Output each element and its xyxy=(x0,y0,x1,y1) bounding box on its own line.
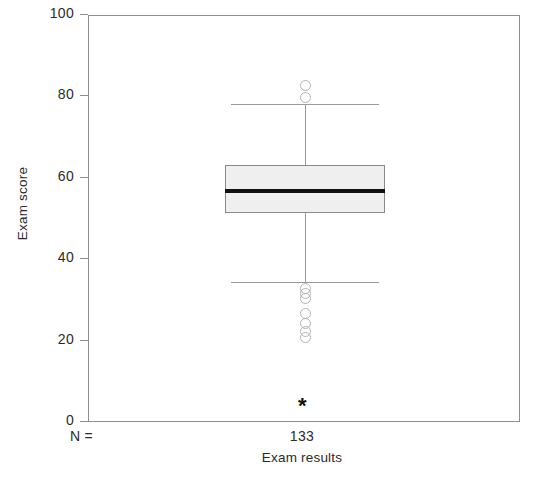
y-tick-mark xyxy=(80,95,88,96)
lower-whisker-stem xyxy=(305,213,306,283)
group-count-label: 133 xyxy=(262,428,342,444)
y-tick-mark xyxy=(80,258,88,259)
y-tick-label: 40 xyxy=(0,249,74,265)
y-tick-mark xyxy=(80,421,88,422)
outlier-circle xyxy=(300,332,311,343)
n-equals-label: N = xyxy=(70,428,93,444)
y-tick-label: 20 xyxy=(0,331,74,347)
y-tick-mark xyxy=(80,340,88,341)
boxplot-figure: Exam score 100806040200 * N = 133 Exam r… xyxy=(0,0,538,479)
median-line xyxy=(225,189,385,193)
outlier-circle xyxy=(300,80,311,91)
plot-area: * xyxy=(88,15,520,422)
upper-whisker-cap xyxy=(231,104,379,105)
x-axis-label: Exam results xyxy=(222,450,382,465)
y-tick-mark xyxy=(80,14,88,15)
y-tick-label: 80 xyxy=(0,86,74,102)
outlier-circle xyxy=(300,293,311,304)
upper-whisker-stem xyxy=(305,104,306,165)
outlier-circle xyxy=(300,92,311,103)
y-tick-mark xyxy=(80,177,88,178)
extreme-outlier-asterisk: * xyxy=(298,395,307,417)
y-tick-label: 0 xyxy=(0,412,74,428)
y-tick-label: 60 xyxy=(0,168,74,184)
outlier-circle xyxy=(300,308,311,319)
y-tick-label: 100 xyxy=(0,5,74,21)
